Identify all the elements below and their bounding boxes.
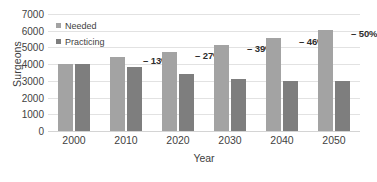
- bar-group: [256, 14, 308, 131]
- legend-item-practicing[interactable]: Practicing: [56, 35, 105, 48]
- y-axis-tick-label: 0: [6, 126, 44, 137]
- legend-swatch-practicing: [56, 39, 61, 44]
- bar-needed-2010[interactable]: [110, 57, 125, 131]
- bar-needed-2000[interactable]: [58, 64, 73, 131]
- bar-group: [204, 14, 256, 131]
- bar-practicing-2010[interactable]: [127, 67, 142, 131]
- x-axis-tick-label: 2000: [62, 134, 85, 146]
- x-axis-tick-labels: 200020102020203020402050: [48, 134, 360, 148]
- y-axis-tick-label: 1000: [6, 109, 44, 120]
- x-axis-tick-label: 2040: [270, 134, 293, 146]
- legend-label: Needed: [65, 21, 97, 31]
- bar-practicing-2050[interactable]: [335, 81, 350, 131]
- y-axis-tick-label: 3000: [6, 75, 44, 86]
- x-axis-tick-label: 2010: [114, 134, 137, 146]
- bar-needed-2040[interactable]: [266, 38, 281, 131]
- bar-needed-2020[interactable]: [162, 52, 177, 131]
- y-axis-tick-label: 5000: [6, 42, 44, 53]
- y-axis-tick-label: 2000: [6, 92, 44, 103]
- bar-needed-2050[interactable]: [318, 30, 333, 131]
- bar-practicing-2040[interactable]: [283, 81, 298, 131]
- bar-group: [152, 14, 204, 131]
- x-axis-tick-label: 2030: [218, 134, 241, 146]
- legend-label: Practicing: [65, 37, 105, 47]
- x-axis-line: [48, 131, 360, 132]
- x-axis-title: Year: [48, 152, 360, 164]
- y-axis-tick-label: 4000: [6, 59, 44, 70]
- bar-needed-2030[interactable]: [214, 45, 229, 131]
- y-axis-tick-label: 6000: [6, 25, 44, 36]
- percent-change-label-2050: – 50%: [351, 28, 377, 39]
- y-axis-tick-labels: 01000200030004000500060007000: [6, 14, 44, 131]
- x-axis-tick-label: 2020: [166, 134, 189, 146]
- bar-practicing-2020[interactable]: [179, 74, 194, 131]
- chart-legend: NeededPracticing: [56, 19, 105, 51]
- bar-practicing-2000[interactable]: [75, 64, 90, 131]
- legend-swatch-needed: [56, 23, 61, 28]
- bar-group: [100, 14, 152, 131]
- bar-practicing-2030[interactable]: [231, 79, 246, 131]
- legend-item-needed[interactable]: Needed: [56, 19, 105, 32]
- y-axis-tick-label: 7000: [6, 9, 44, 20]
- x-axis-tick-label: 2050: [322, 134, 345, 146]
